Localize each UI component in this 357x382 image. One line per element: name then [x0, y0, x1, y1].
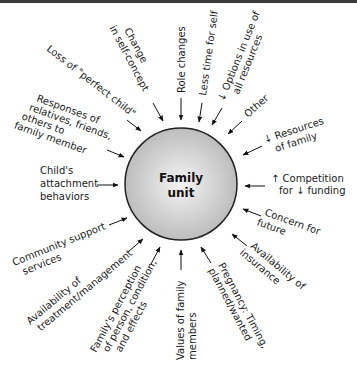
label-options-resources: ↓ Options in use of all resources [216, 9, 273, 107]
label-availability-insurance: Availability of insurance [238, 238, 308, 302]
label-pregnancy: Pregnancy: Timing, planned/wanted [207, 261, 271, 355]
arrow-pregnancy [201, 247, 211, 263]
arrow-community-support [109, 218, 127, 225]
label-resources-family: ↓ Resources of family [262, 115, 329, 156]
family-unit-node: Family unit [125, 128, 237, 240]
label-community-support: Community support services [11, 220, 112, 279]
arrow-other [228, 121, 242, 134]
label-responses-relatives: Responses of relatives, friends, others … [13, 88, 117, 162]
arrow-less-time-self [199, 103, 202, 122]
label-change-self-concept: Change in self-concept [107, 18, 162, 93]
svg-text:↑ Competition: ↑ Competition [271, 173, 344, 184]
arrow-concern-future [243, 209, 261, 216]
svg-text:Less time for self: Less time for self [197, 10, 220, 97]
arrow-options-resources [212, 108, 222, 125]
arrow-availability-insurance [232, 234, 247, 246]
label-role-changes: Role changes [176, 26, 187, 93]
arrow-resources-family [243, 146, 262, 155]
arrow-availability-treatment [128, 239, 143, 252]
arrow-change-self-concept [153, 103, 163, 121]
label-less-time-self: Less time for self [197, 10, 220, 97]
label-competition-funding: ↑ Competition for ↓ funding [271, 173, 346, 196]
arrow-responses-relatives [107, 150, 124, 157]
svg-text:Values of family: Values of family [175, 280, 186, 360]
svg-text:Child's: Child's [40, 165, 73, 176]
label-other: Other [242, 92, 271, 120]
svg-text:Other: Other [242, 92, 271, 120]
svg-text:Role changes: Role changes [176, 26, 187, 93]
svg-text:attachment: attachment [40, 178, 98, 189]
label-concern-future: Concern for future [255, 205, 322, 248]
svg-text:behaviors: behaviors [40, 191, 89, 202]
label-values-family: Values of family members [175, 280, 198, 360]
family-unit-diagram: Family unit Change in self-concept Role … [0, 0, 357, 382]
center-label-line2: unit [168, 186, 195, 200]
label-attachment-behaviors: Child's attachment behaviors [40, 165, 98, 202]
arrow-loss-perfect-child [127, 120, 141, 131]
svg-text:for ↓ funding: for ↓ funding [279, 185, 346, 196]
center-label-line1: Family [159, 171, 203, 185]
svg-text:members: members [187, 313, 198, 360]
